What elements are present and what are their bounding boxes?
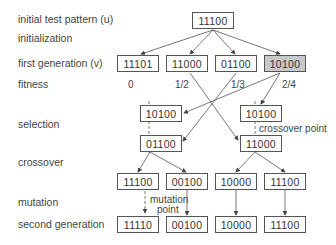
fitness-value-4: 2/4 [282, 79, 296, 90]
crossover-box-4: 11100 [264, 173, 306, 190]
fitness-value-2: 1/2 [175, 79, 189, 90]
gen1-box-3: 01100 [215, 55, 257, 72]
gen1-box-4-highlighted: 10100 [264, 55, 306, 72]
crossover-box-2: 00100 [166, 173, 208, 190]
gen1-box-1: 11101 [117, 55, 159, 72]
selection-left-top: 10100 [140, 105, 182, 122]
gen2-box-2: 00100 [166, 216, 208, 233]
mutation-point-note-line2: point [157, 205, 179, 215]
fitness-value-1: 0 [128, 79, 134, 90]
gen2-box-3: 10000 [215, 216, 257, 233]
crossover-box-3: 10000 [215, 173, 257, 190]
fitness-value-3: 1/3 [231, 79, 245, 90]
selection-left-bottom: 01100 [140, 135, 182, 152]
gen1-box-2: 11000 [166, 55, 208, 72]
gen2-box-4: 11100 [264, 216, 306, 233]
crossover-box-1: 11100 [117, 173, 159, 190]
crossover-point-note: crossover point [259, 124, 327, 134]
selection-right-bottom: 11000 [240, 135, 282, 152]
initial-pattern-box: 11100 [192, 12, 234, 29]
selection-right-top: 10100 [240, 105, 282, 122]
gen2-box-1: 11110 [117, 216, 159, 233]
